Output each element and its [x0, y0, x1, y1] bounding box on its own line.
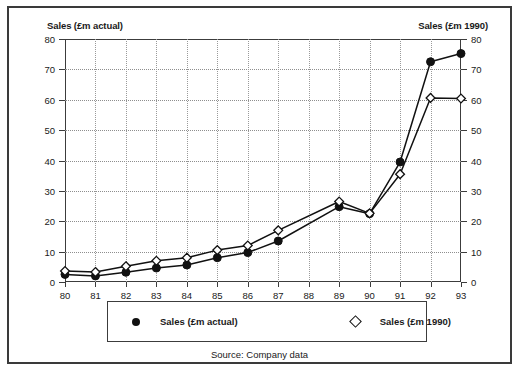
right-axis-title: Sales (£m 1990) — [418, 20, 488, 31]
y-tick-label-right: 20 — [471, 216, 482, 227]
legend-entry-sales-actual: Sales (£m actual) — [132, 316, 238, 327]
data-point-filled-circle — [274, 237, 282, 245]
axis-tick — [278, 282, 279, 287]
legend-entry-sales-1990: Sales (£m 1990) — [351, 316, 451, 327]
y-tick-label-right: 50 — [471, 125, 482, 136]
x-tick-label: 90 — [364, 290, 375, 301]
y-tick-label-left: 20 — [44, 216, 55, 227]
x-tick-label: 89 — [334, 290, 345, 301]
filled-circle-marker-icon — [132, 318, 140, 326]
x-tick-label: 91 — [395, 290, 406, 301]
axis-tick — [217, 282, 218, 287]
y-tick-label-left: 0 — [50, 277, 55, 288]
legend-label-sales-1990: Sales (£m 1990) — [380, 316, 451, 327]
x-tick-label: 87 — [273, 290, 284, 301]
data-point-open-diamond — [243, 241, 252, 250]
y-tick-label-right: 70 — [471, 64, 482, 75]
data-point-open-diamond — [426, 94, 435, 103]
x-tick-label: 92 — [425, 290, 436, 301]
y-tick-label-left: 50 — [44, 125, 55, 136]
x-tick-label: 86 — [242, 290, 253, 301]
series-layer — [65, 39, 461, 282]
y-tick-label-right: 60 — [471, 94, 482, 105]
y-tick-label-left: 40 — [44, 155, 55, 166]
axis-tick — [156, 282, 157, 287]
y-tick-label-left: 80 — [44, 34, 55, 45]
data-point-filled-circle — [457, 50, 465, 58]
x-tick-label: 84 — [182, 290, 193, 301]
data-point-open-diamond — [152, 256, 161, 265]
data-point-open-diamond — [457, 94, 466, 103]
axis-tick — [95, 282, 96, 287]
y-tick-label-right: 40 — [471, 155, 482, 166]
x-tick-label: 82 — [121, 290, 132, 301]
y-tick-label-left: 10 — [44, 246, 55, 257]
axis-tick — [248, 282, 249, 287]
legend-label-sales-actual: Sales (£m actual) — [160, 316, 238, 327]
axis-tick — [431, 282, 432, 287]
axis-tick — [461, 69, 467, 70]
y-tick-label-right: 10 — [471, 246, 482, 257]
axis-tick — [461, 282, 462, 287]
x-tick-label: 93 — [456, 290, 467, 301]
axis-tick — [339, 282, 340, 287]
x-tick-label: 85 — [212, 290, 223, 301]
chart-figure: Sales (£m actual) Sales (£m 1990) 010203… — [7, 6, 512, 364]
left-axis-title: Sales (£m actual) — [47, 20, 123, 31]
x-tick-label: 81 — [90, 290, 101, 301]
y-tick-label-right: 30 — [471, 185, 482, 196]
data-point-filled-circle — [396, 158, 404, 166]
axis-tick — [126, 282, 127, 287]
source-note: Source: Company data — [9, 349, 510, 360]
axis-tick — [400, 282, 401, 287]
x-tick-label: 80 — [60, 290, 71, 301]
y-tick-label-right: 80 — [471, 34, 482, 45]
data-point-open-diamond — [274, 226, 283, 235]
data-point-filled-circle — [427, 58, 435, 66]
series-line — [65, 98, 461, 272]
y-tick-label-left: 30 — [44, 185, 55, 196]
axis-tick — [461, 191, 467, 192]
data-point-open-diamond — [213, 246, 222, 255]
x-tick-label: 83 — [151, 290, 162, 301]
y-tick-label-left: 70 — [44, 64, 55, 75]
axis-tick — [187, 282, 188, 287]
axis-tick — [461, 130, 467, 131]
y-tick-label-left: 60 — [44, 94, 55, 105]
axis-tick — [461, 39, 467, 40]
chart-legend: Sales (£m actual) Sales (£m 1990) — [107, 301, 427, 342]
axis-tick — [461, 252, 467, 253]
plot-area: 01020304050607080 01020304050607080 8081… — [65, 39, 461, 282]
data-point-open-diamond — [182, 253, 191, 262]
axis-tick — [370, 282, 371, 287]
y-tick-label-right: 0 — [471, 277, 476, 288]
open-diamond-marker-icon — [349, 315, 362, 328]
axis-tick — [309, 282, 310, 287]
axis-tick — [65, 282, 66, 287]
x-tick-label: 88 — [303, 290, 314, 301]
axis-tick — [461, 221, 467, 222]
axis-tick — [461, 161, 467, 162]
